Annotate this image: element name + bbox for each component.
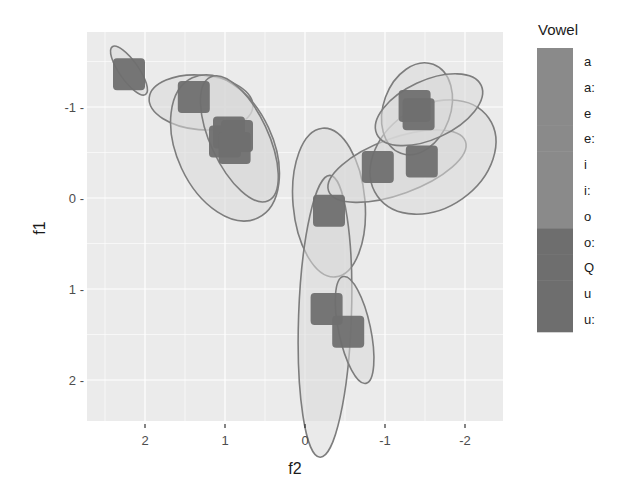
x-tick-label: 2 xyxy=(141,433,148,448)
legend-title: Vowel xyxy=(538,21,578,38)
legend-label: a: xyxy=(584,80,595,95)
legend-label: Q xyxy=(584,260,594,275)
legend-key xyxy=(537,280,573,306)
y-tick-label: 1 - xyxy=(69,282,84,297)
legend-key xyxy=(537,203,573,229)
y-tick-label: 2 - xyxy=(69,373,84,388)
data-point xyxy=(313,195,345,227)
data-point xyxy=(403,98,435,130)
data-point xyxy=(362,151,394,183)
y-tick-label: -1 - xyxy=(65,100,85,115)
legend-label: e: xyxy=(584,131,595,146)
legend: Vowel aa:ee:ii:oo:Quu: xyxy=(537,21,595,332)
data-point xyxy=(178,81,210,113)
data-point xyxy=(332,316,364,348)
legend-key xyxy=(537,306,573,332)
x-tick-label: 1 xyxy=(221,433,228,448)
legend-key xyxy=(537,177,573,203)
legend-label: o xyxy=(584,209,591,224)
legend-key xyxy=(537,229,573,255)
legend-key xyxy=(537,254,573,280)
legend-key xyxy=(537,151,573,177)
y-axis: -1 -0 -1 -2 - xyxy=(65,100,85,388)
legend-label: i xyxy=(584,157,587,172)
legend-key xyxy=(537,48,573,74)
legend-label: a xyxy=(584,54,592,69)
x-axis-title: f2 xyxy=(288,460,301,477)
vowel-chart: 210-1-2 -1 -0 -1 -2 - f2 f1 Vowel aa:ee:… xyxy=(0,0,630,492)
y-axis-title: f1 xyxy=(31,221,48,234)
data-point xyxy=(113,58,145,90)
data-point xyxy=(406,146,438,178)
y-tick-label: 0 - xyxy=(69,191,84,206)
legend-key xyxy=(537,125,573,151)
x-tick-label: -2 xyxy=(459,433,471,448)
legend-label: u xyxy=(584,286,591,301)
x-tick-label: 0 xyxy=(301,433,308,448)
x-tick-label: -1 xyxy=(379,433,391,448)
legend-label: o: xyxy=(584,235,595,250)
legend-key xyxy=(537,100,573,126)
data-point xyxy=(219,132,251,164)
legend-label: u: xyxy=(584,312,595,327)
legend-key xyxy=(537,74,573,100)
legend-label: i: xyxy=(584,183,591,198)
legend-label: e xyxy=(584,106,591,121)
